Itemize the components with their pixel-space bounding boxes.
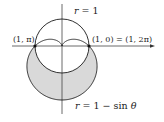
cardioid-equation-label: r = 1 − sin θ [75,101,136,111]
circle-eq-rest: = 1 [79,5,99,16]
cardioid-eq-mid: = 1 − sin [80,100,131,111]
circle-equation-label: r = 1 [74,6,99,16]
left-point-label: (1, π) [13,36,35,44]
intersection-point-left [33,44,36,47]
intersection-point-right [87,44,90,47]
right-point-text: (1, 0) = (1, 2π) [92,35,152,44]
x-axis-arrow-icon [150,44,155,47]
left-point-text: (1, π) [13,35,35,44]
right-point-label: (1, 0) = (1, 2π) [92,36,152,44]
cardioid-eq-theta: θ [131,100,137,111]
